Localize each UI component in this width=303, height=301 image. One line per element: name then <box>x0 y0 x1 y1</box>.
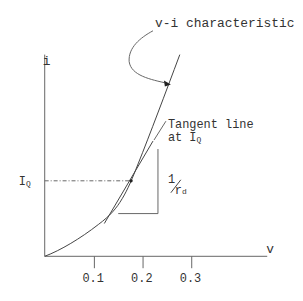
slope-denominator: rd <box>175 184 187 198</box>
x-tick-label-2: 0.2 <box>131 272 152 286</box>
tangent-label-line2: at IQ <box>168 131 202 145</box>
x-axis-label: v <box>266 242 274 257</box>
operating-point <box>130 179 133 182</box>
tangent-label-leader <box>154 121 166 140</box>
x-tick-label-3: 0.3 <box>180 272 201 286</box>
callout-arrow <box>129 31 168 84</box>
diode-vi-diagram: 0.1 0.2 0.3 i v IQ 1 rd Tangent line at … <box>0 0 303 301</box>
vi-curve <box>45 55 180 257</box>
iq-label: IQ <box>19 175 31 189</box>
y-axis-label: i <box>43 54 51 69</box>
tangent-line <box>104 141 153 223</box>
tangent-label-line1: Tangent line <box>168 118 254 132</box>
vi-characteristic-label: v-i characteristic <box>155 16 294 31</box>
slope-triangle <box>118 149 158 214</box>
x-tick-label-1: 0.1 <box>82 272 103 286</box>
